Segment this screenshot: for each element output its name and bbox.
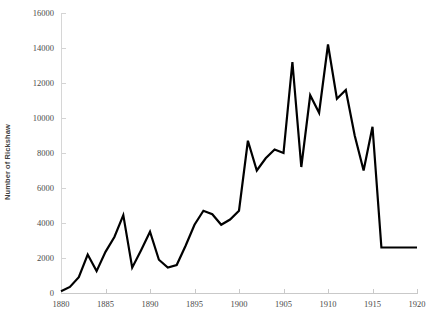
x-axis-tick-label: 1900 [219,299,259,309]
y-axis-tick-mark [62,188,66,189]
y-axis-tick-label: 14000 [8,43,54,53]
x-axis-tick-label: 1920 [397,299,430,309]
y-axis-tick-mark [62,258,66,259]
x-axis-tick-mark [284,289,285,293]
y-axis-tick-mark [62,13,66,14]
x-axis-tick-label: 1880 [41,299,81,309]
y-axis-tick-label: 0 [8,288,54,298]
x-axis-tick-label: 1885 [86,299,126,309]
x-axis-tick-mark [417,289,418,293]
y-axis-tick-label: 8000 [8,148,54,158]
x-axis-tick-label: 1910 [308,299,348,309]
y-axis-tick-label: 6000 [8,183,54,193]
y-axis-tick-label: 4000 [8,218,54,228]
y-axis-tick-mark [62,83,66,84]
y-axis-tick-mark [62,118,66,119]
x-axis-tick-mark [328,289,329,293]
y-axis-tick-mark [62,48,66,49]
x-axis-tick-mark [106,289,107,293]
y-axis-tick-label: 10000 [8,113,54,123]
x-axis-tick-label: 1915 [353,299,393,309]
x-axis-tick-label: 1895 [175,299,215,309]
x-axis-tick-mark [239,289,240,293]
x-axis-tick-label: 1905 [264,299,304,309]
y-axis-tick-label: 2000 [8,253,54,263]
x-axis-tick-mark [195,289,196,293]
x-axis-line [61,293,418,294]
x-axis-tick-mark [373,289,374,293]
x-axis-tick-mark [150,289,151,293]
y-axis-tick-label: 16000 [8,8,54,18]
x-axis-tick-label: 1890 [130,299,170,309]
y-axis-tick-mark [62,223,66,224]
y-axis-tick-mark [62,153,66,154]
y-axis-tick-label: 12000 [8,78,54,88]
